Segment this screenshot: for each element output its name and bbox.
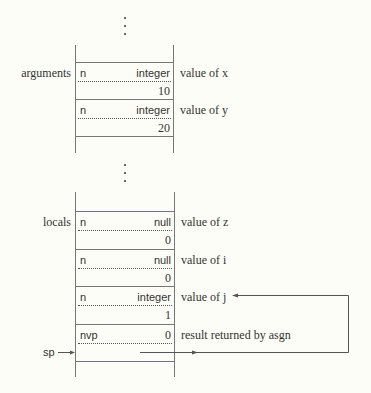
assignment-arrow-icon [140,294,349,355]
sp-arrow-icon [58,351,75,355]
pointer-arrows [0,0,371,393]
